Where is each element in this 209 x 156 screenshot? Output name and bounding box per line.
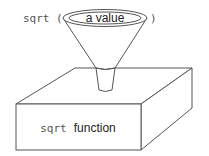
sqrt-function-diagram: sqrt ( ) a value sqrt function (0, 0, 209, 156)
input-value-label: a value (86, 11, 125, 25)
call-suffix-text: ) (150, 12, 157, 25)
funnel-stem (96, 68, 115, 92)
call-prefix-text: sqrt ( (23, 12, 63, 25)
box-label-code: sqrt (40, 122, 67, 135)
box-label-text: function (74, 121, 116, 135)
